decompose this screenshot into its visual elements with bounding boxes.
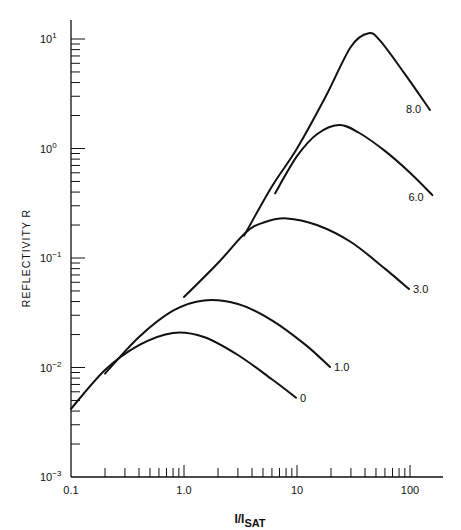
curve-1-0 <box>105 300 330 374</box>
y-tick-label: 100 <box>40 141 57 155</box>
curve-label: 3.0 <box>413 283 428 295</box>
x-tick-label: 1.0 <box>176 484 191 496</box>
curve-label: 6.0 <box>408 191 423 203</box>
labels: 0.11.01010010110010−110−210−3REFLECTIVIT… <box>20 31 428 529</box>
curve-label: 8.0 <box>406 103 421 115</box>
y-tick-label: 10−1 <box>40 250 62 264</box>
curve-8-0 <box>244 33 430 236</box>
axes <box>71 20 443 477</box>
curve-label: 0 <box>300 392 306 404</box>
x-tick-label: 100 <box>401 484 419 496</box>
y-tick-label: 10−3 <box>40 469 62 483</box>
y-axis-label: REFLECTIVITY R <box>20 209 32 307</box>
curves <box>71 33 432 409</box>
curve-6-0 <box>275 125 432 195</box>
x-tick-label: 0.1 <box>63 484 78 496</box>
curve-0 <box>71 332 296 408</box>
x-axis-label: I/ISAT <box>234 512 265 529</box>
reflectivity-chart: 0.11.01010010110010−110−210−3REFLECTIVIT… <box>0 0 461 530</box>
y-tick-label: 10−2 <box>40 360 62 374</box>
y-tick-label: 101 <box>40 31 57 45</box>
curve-label: 1.0 <box>334 361 349 373</box>
x-tick-label: 10 <box>291 484 303 496</box>
curve-3-0 <box>184 218 409 297</box>
